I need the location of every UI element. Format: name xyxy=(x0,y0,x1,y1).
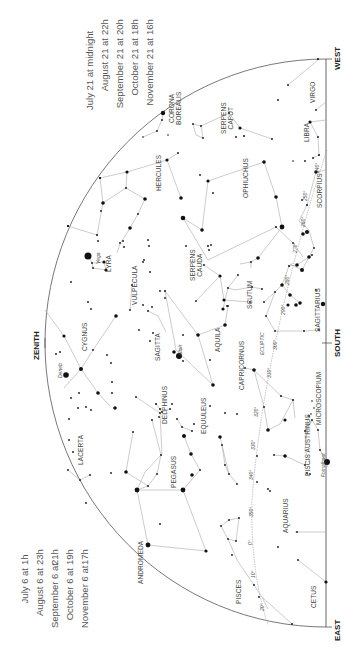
star-label: Vega xyxy=(95,253,101,265)
constellation-label: PISCES xyxy=(235,580,242,604)
constellation-label: LYRA xyxy=(105,255,112,272)
constellation-label: SCUTUM xyxy=(246,281,253,309)
ecliptic-degree-label: 350° xyxy=(248,507,254,517)
constellation-label: CYGNUS xyxy=(81,323,88,351)
label-zenith: ZENITH xyxy=(32,331,41,360)
constellation-label: ANDROMEDA xyxy=(137,540,144,583)
ecliptic-degree-label: 250° xyxy=(302,191,308,201)
ecliptic-degree-label: 310° xyxy=(266,368,272,378)
star-label: Deneb xyxy=(57,363,63,378)
label-west: WEST xyxy=(333,47,342,70)
ecliptic-degree-label: 320° xyxy=(253,407,259,417)
ecliptic-degree-label: 270° xyxy=(292,243,298,253)
ecliptic-degree-label: 290° xyxy=(280,305,286,315)
constellation-label: CETUS xyxy=(310,585,317,608)
constellation-label: SAGITTA xyxy=(154,333,161,361)
constellation-label: VULPECULA xyxy=(131,265,138,305)
constellation-label: AQUILA xyxy=(214,328,221,352)
ecliptic-degree-label: 10° xyxy=(250,570,256,578)
ecliptic-degree-label: 20° xyxy=(259,603,265,611)
label-east: EAST xyxy=(333,620,342,641)
constellation-label: MICROSCOPIUM xyxy=(315,371,322,424)
ecliptic-degree-label: 340° xyxy=(248,470,254,480)
stars xyxy=(55,58,330,625)
constellation-label: CORONA BOREALIS xyxy=(168,91,182,124)
ecliptic-degree-label: 260° xyxy=(300,217,306,227)
ecliptic-degree-label: 240° xyxy=(314,163,320,173)
label-south: SOUTH xyxy=(333,329,342,357)
constellation-label: LIBRA xyxy=(303,122,310,141)
star-label: Fomalhaut xyxy=(320,453,326,477)
constellation-label: PISCIS AUSTRINUS xyxy=(304,414,311,476)
constellation-label: SAGITTARIUS xyxy=(314,288,321,332)
ecliptic-label: ECLIPTIC xyxy=(259,332,265,355)
ecliptic-degree-label: 280° xyxy=(284,275,290,285)
constellation-label: AQUARIUS xyxy=(282,498,289,533)
constellation-label: PEGASUS xyxy=(170,456,177,488)
ecliptic-degree-label: 0° xyxy=(247,540,253,545)
constellation-label: SERPENS CAPUT xyxy=(220,102,234,134)
ecliptic-degree-label: 330° xyxy=(250,440,256,450)
constellation-label: DELPHINUS xyxy=(161,386,168,424)
constellation-label: SCORPIUS xyxy=(316,173,323,208)
constellation-label: LACERTA xyxy=(77,435,84,465)
constellation-label: OPHIUCHUS xyxy=(242,158,249,198)
star-label: Altair xyxy=(177,344,183,355)
ecliptic-degree-label: 300° xyxy=(272,340,278,350)
constellation-label: HERCULES xyxy=(155,155,162,191)
constellation-label: SERPENS CAUDA xyxy=(189,249,203,281)
constellation-label: CAPRICORNUS xyxy=(238,340,245,389)
constellation-label: VIRGO xyxy=(309,81,316,102)
constellation-label: EQUULEUS xyxy=(200,397,207,434)
